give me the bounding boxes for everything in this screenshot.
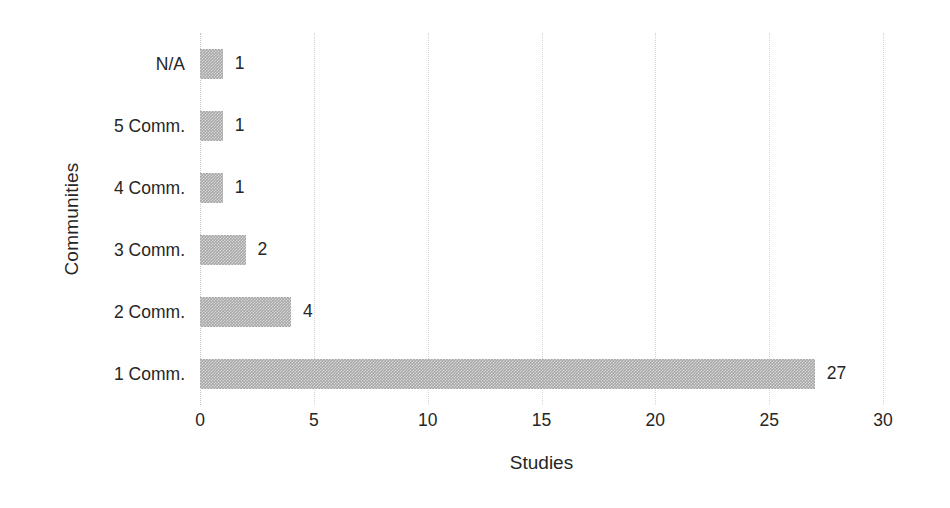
x-tick-label: 0 xyxy=(195,410,205,431)
x-tick-label: 20 xyxy=(646,410,665,431)
bar[interactable] xyxy=(200,173,223,203)
bar-row: 4 xyxy=(200,281,883,343)
y-axis-tick-labels: N/A5 Comm.4 Comm.3 Comm.2 Comm.1 Comm. xyxy=(86,33,185,405)
x-tick-label: 15 xyxy=(532,410,551,431)
bar[interactable] xyxy=(200,359,815,389)
bar-row: 1 xyxy=(200,95,883,157)
y-tick-label: 1 Comm. xyxy=(86,343,185,405)
y-tick-label: 5 Comm. xyxy=(86,95,185,157)
horizontal-bar-chart: Communities N/A5 Comm.4 Comm.3 Comm.2 Co… xyxy=(0,0,950,508)
y-axis-title: Communities xyxy=(60,33,84,405)
bar-value-label: 1 xyxy=(235,179,245,197)
y-tick-label: N/A xyxy=(86,33,185,95)
bar-value-label: 1 xyxy=(235,117,245,135)
bar[interactable] xyxy=(200,49,223,79)
x-axis-tick-labels: 051015202530 xyxy=(200,410,883,438)
bar-row: 1 xyxy=(200,157,883,219)
x-axis-title: Studies xyxy=(200,452,883,474)
bar-value-label: 4 xyxy=(303,303,313,321)
y-tick-label: 2 Comm. xyxy=(86,281,185,343)
bar[interactable] xyxy=(200,111,223,141)
bars-layer: 1112427 xyxy=(200,33,883,405)
bar-row: 2 xyxy=(200,219,883,281)
y-tick-label: 4 Comm. xyxy=(86,157,185,219)
bar-row: 1 xyxy=(200,33,883,95)
x-tick-label: 30 xyxy=(873,410,892,431)
bar-value-label: 1 xyxy=(235,55,245,73)
bar[interactable] xyxy=(200,235,246,265)
bar[interactable] xyxy=(200,297,291,327)
x-tick-label: 5 xyxy=(309,410,319,431)
bar-value-label: 27 xyxy=(827,365,846,383)
bar-row: 27 xyxy=(200,343,883,405)
gridline-30 xyxy=(883,33,884,405)
x-tick-label: 10 xyxy=(418,410,437,431)
x-tick-label: 25 xyxy=(759,410,778,431)
y-tick-label: 3 Comm. xyxy=(86,219,185,281)
plot-area: 1112427 xyxy=(200,33,883,405)
bar-value-label: 2 xyxy=(258,241,268,259)
